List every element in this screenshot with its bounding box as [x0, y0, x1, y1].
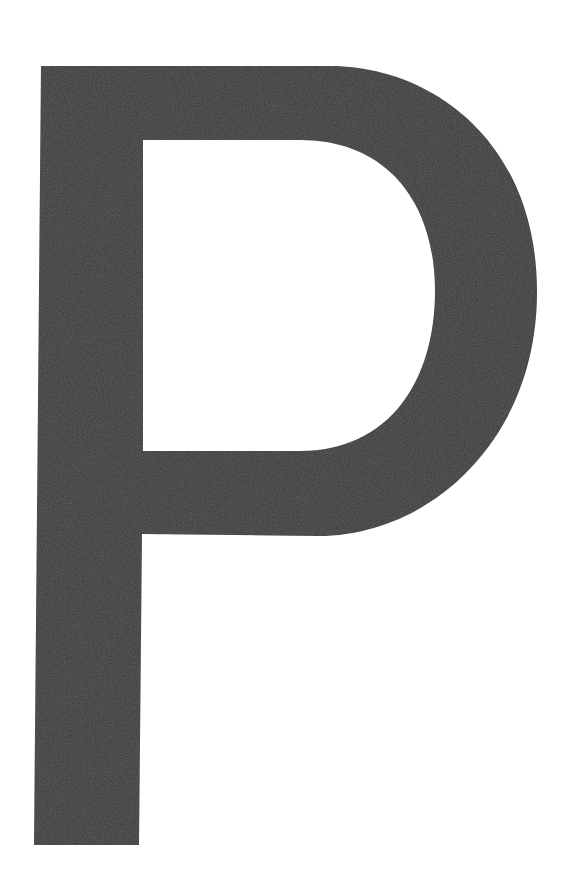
page-canvas: P — [0, 0, 574, 893]
letter-p-glyph — [0, 0, 574, 893]
